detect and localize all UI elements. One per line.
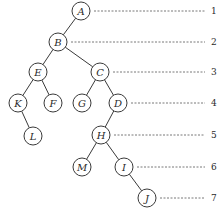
- edge-B-C: [65, 47, 92, 67]
- tree-node-A: A: [72, 2, 90, 20]
- node-label: D: [113, 98, 122, 109]
- edge-C-D: [105, 80, 114, 95]
- level-number-label: 2: [211, 37, 217, 47]
- tree-node-H: H: [92, 126, 110, 144]
- node-label: F: [49, 98, 58, 109]
- edge-B-E: [43, 49, 53, 64]
- node-label: M: [76, 162, 88, 173]
- edge-D-H: [105, 111, 114, 127]
- level-number-label: 5: [211, 130, 217, 140]
- node-label: E: [33, 67, 42, 78]
- node-label: L: [29, 131, 37, 142]
- edge-C-G: [87, 80, 96, 95]
- node-label: K: [13, 98, 22, 109]
- tree-node-E: E: [29, 63, 47, 81]
- tree-node-L: L: [24, 127, 42, 145]
- tree-node-I: I: [115, 158, 133, 176]
- tree-node-K: K: [9, 94, 27, 112]
- tree-node-B: B: [49, 33, 67, 51]
- tree-node-D: D: [109, 94, 127, 112]
- node-label: J: [143, 193, 150, 204]
- node-label: C: [96, 67, 104, 78]
- tree-node-F: F: [44, 94, 62, 112]
- level-labels: 1234567: [211, 6, 217, 203]
- node-label: A: [76, 6, 84, 17]
- edge-E-F: [42, 80, 49, 95]
- level-number-label: 7: [211, 193, 217, 203]
- tree-node-M: M: [73, 158, 91, 176]
- node-label: B: [53, 37, 61, 48]
- edge-H-I: [106, 142, 118, 159]
- level-number-label: 1: [211, 6, 217, 16]
- edge-I-J: [129, 174, 141, 191]
- tree-node-C: C: [91, 63, 109, 81]
- edge-A-B: [63, 18, 75, 35]
- level-number-label: 6: [211, 162, 217, 172]
- node-label: H: [96, 130, 106, 141]
- edge-K-L: [22, 111, 30, 128]
- node-label: G: [78, 98, 86, 109]
- tree-node-G: G: [73, 94, 91, 112]
- level-number-label: 4: [211, 98, 217, 108]
- edge-E-K: [23, 80, 33, 96]
- tree-nodes: ABECKFGDLHMIJ: [9, 2, 156, 207]
- tree-node-J: J: [138, 189, 156, 207]
- binary-tree-diagram: ABECKFGDLHMIJ 1234567: [0, 0, 219, 212]
- edge-H-M: [87, 143, 97, 160]
- level-number-label: 3: [211, 67, 217, 77]
